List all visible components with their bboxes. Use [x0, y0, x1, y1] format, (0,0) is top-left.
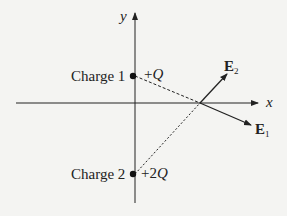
- vector-e2-arrow: [200, 74, 227, 103]
- charge-2-value: +2Q: [141, 166, 168, 181]
- vector-e2-label: E2: [224, 59, 239, 76]
- x-axis-label: x: [266, 95, 273, 110]
- charge-2-symbol: Q: [157, 165, 168, 181]
- charge-2-label: Charge 2: [71, 167, 125, 182]
- vector-e1-letter: E: [255, 121, 265, 137]
- charge-1-value: +Q: [144, 67, 163, 82]
- vector-e2-subscript: 2: [234, 66, 239, 76]
- dashed-line-charge-2: [135, 103, 200, 174]
- vector-e2-letter: E: [224, 58, 234, 74]
- charge-1-dot: [130, 73, 136, 79]
- charge-1-symbol: Q: [152, 66, 163, 82]
- charge-2-coef: 2: [149, 165, 157, 181]
- diagram-graphics: [0, 0, 287, 216]
- y-axis-label: y: [120, 9, 127, 24]
- vector-e1-arrow: [200, 103, 251, 125]
- charge-1-label: Charge 1: [71, 69, 125, 84]
- charge-2-dot: [130, 171, 136, 177]
- vector-e1-subscript: 1: [265, 129, 270, 139]
- vector-e1-label: E1: [255, 122, 270, 139]
- electric-field-diagram: y x Charge 1 +Q Charge 2 +2Q E2 E1: [0, 0, 287, 216]
